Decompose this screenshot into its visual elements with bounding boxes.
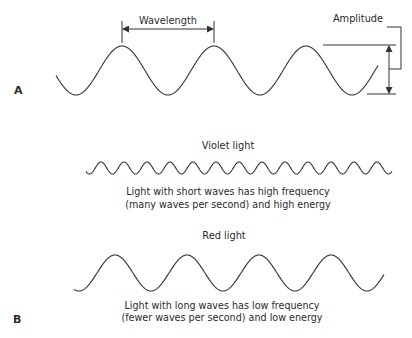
wave-a (56, 46, 378, 95)
violet-caption-line2: (many waves per second) and high energy (125, 199, 331, 210)
wavelength-label: Wavelength (139, 15, 197, 26)
red-wave (74, 255, 384, 291)
amplitude-label: Amplitude (333, 13, 383, 24)
red-caption-line2: (fewer waves per second) and low energy (121, 312, 322, 323)
violet-wave (86, 162, 392, 174)
panel-b-label: B (13, 313, 21, 326)
amplitude-marker (323, 27, 401, 94)
diagram-svg: A Wavelength Amplitude Violet light Ligh… (0, 0, 412, 338)
violet-caption-line1: Light with short waves has high frequenc… (126, 186, 330, 197)
panel-a-label: A (14, 84, 23, 97)
red-caption-line1: Light with long waves has low frequency (124, 300, 319, 311)
violet-light-title: Violet light (202, 140, 255, 151)
red-light-title: Red light (202, 230, 246, 241)
wave-diagram: A Wavelength Amplitude Violet light Ligh… (0, 0, 412, 338)
